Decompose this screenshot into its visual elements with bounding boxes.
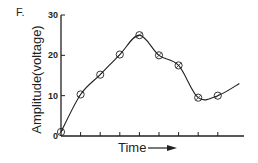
y-axis-title: Amplitude(voltage) bbox=[29, 25, 44, 133]
data-curve bbox=[61, 35, 239, 132]
y-tick-label: 30 bbox=[48, 10, 58, 20]
x-axis-title: Time bbox=[118, 140, 146, 155]
data-markers bbox=[57, 32, 221, 136]
line-chart: 0102030Amplitude(voltage)Time bbox=[0, 0, 258, 163]
time-arrow-icon bbox=[167, 145, 177, 151]
data-point-slash bbox=[78, 92, 83, 97]
data-line bbox=[61, 35, 239, 132]
y-tick-label: 10 bbox=[48, 91, 58, 101]
data-point-slash bbox=[215, 93, 220, 98]
data-point-slash bbox=[98, 72, 103, 77]
y-tick-label: 20 bbox=[48, 50, 58, 60]
data-point-slash bbox=[117, 52, 122, 57]
axes bbox=[61, 15, 244, 136]
y-tick-label: 0 bbox=[53, 131, 58, 141]
axis-labels: 0102030Amplitude(voltage)Time bbox=[29, 10, 177, 155]
